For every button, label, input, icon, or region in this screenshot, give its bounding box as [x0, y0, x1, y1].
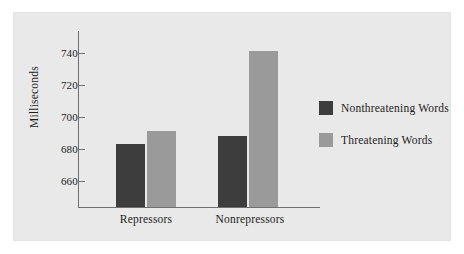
x-category-label-nonrepressors: Nonrepressors — [194, 213, 306, 225]
y-tick-740 — [79, 53, 85, 54]
legend-label-threatening: Threatening Words — [341, 134, 432, 146]
bar-repressors-threatening — [147, 131, 176, 207]
y-tick-label-720: 720 — [44, 80, 78, 91]
figure: Milliseconds 740 720 700 680 660 — [0, 0, 464, 254]
y-tick-label-wrap-720: 720 — [14, 80, 78, 91]
y-tick-700 — [79, 117, 85, 118]
y-tick-label-wrap-680: 680 — [14, 144, 78, 155]
y-tick-label-700: 700 — [44, 112, 78, 123]
y-tick-label-wrap-740: 740 — [14, 48, 78, 59]
y-tick-660 — [79, 181, 85, 182]
legend-swatch-icon-nonthreatening — [319, 101, 333, 115]
legend-label-nonthreatening: Nonthreatening Words — [341, 102, 449, 114]
legend: Nonthreatening Words Threatening Words — [319, 101, 447, 165]
bar-nonrepressors-nonthreatening — [218, 136, 247, 207]
y-tick-label-wrap-660: 660 — [14, 176, 78, 187]
y-tick-label-660: 660 — [44, 176, 78, 187]
legend-swatch-icon-threatening — [319, 133, 333, 147]
x-category-label-repressors: Repressors — [96, 213, 196, 225]
y-tick-680 — [79, 149, 85, 150]
bar-repressors-nonthreatening — [116, 144, 145, 207]
y-axis-title: Milliseconds — [28, 51, 40, 143]
y-tick-label-wrap-700: 700 — [14, 112, 78, 123]
bar-nonrepressors-threatening — [249, 51, 278, 207]
chart-panel: Milliseconds 740 720 700 680 660 — [14, 13, 450, 240]
legend-item-threatening-words: Threatening Words — [319, 133, 447, 147]
x-axis-line — [78, 207, 320, 208]
plot-area: Milliseconds 740 720 700 680 660 — [14, 13, 450, 240]
y-tick-720 — [79, 85, 85, 86]
y-tick-label-680: 680 — [44, 144, 78, 155]
y-tick-label-740: 740 — [44, 48, 78, 59]
legend-item-nonthreatening-words: Nonthreatening Words — [319, 101, 447, 115]
